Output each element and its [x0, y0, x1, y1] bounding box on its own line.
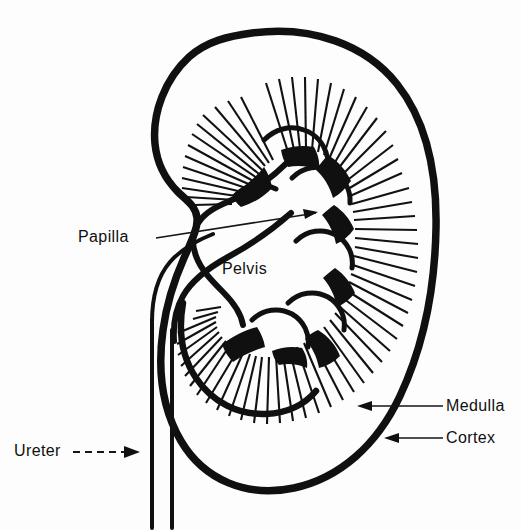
label-cortex: Cortex — [446, 430, 496, 446]
ureter-leader — [73, 446, 140, 458]
label-ureter: Ureter — [14, 443, 61, 459]
label-medulla: Medulla — [446, 398, 505, 414]
kidney-diagram: Papilla Pelvis Medulla Cortex Ureter — [0, 0, 521, 530]
label-pelvis: Pelvis — [222, 261, 267, 277]
cortex-leader — [384, 433, 443, 443]
renal-calyces — [222, 146, 355, 368]
label-papilla: Papilla — [78, 229, 129, 245]
